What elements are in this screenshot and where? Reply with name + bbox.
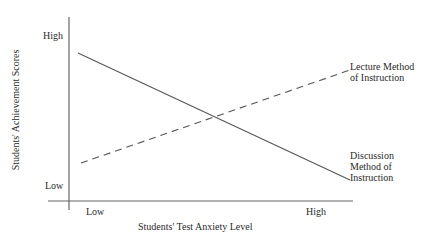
y-tick-high: High: [43, 30, 63, 41]
y-axis-label: Students' Achievement Scores: [10, 50, 21, 171]
discussion-label-line1: Discussion: [350, 150, 394, 161]
lecture-label-line2: of Instruction: [350, 72, 414, 83]
discussion-label-line3: Instruction: [350, 172, 394, 183]
discussion-line: [78, 53, 350, 180]
lecture-line: [81, 70, 350, 163]
discussion-label-line2: Method of: [350, 161, 394, 172]
y-tick-low: Low: [45, 180, 63, 191]
discussion-legend-label: Discussion Method of Instruction: [350, 150, 394, 183]
plot-area: [0, 0, 435, 244]
x-axis-label: Students' Test Anxiety Level: [138, 221, 253, 232]
lecture-legend-label: Lecture Method of Instruction: [350, 61, 414, 83]
x-tick-high: High: [306, 206, 326, 217]
lecture-label-line1: Lecture Method: [350, 61, 414, 72]
x-tick-low: Low: [86, 206, 104, 217]
